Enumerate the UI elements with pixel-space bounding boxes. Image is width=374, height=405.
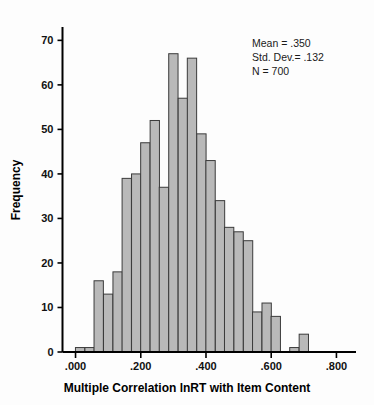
x-axis-tick-label: .800: [326, 360, 347, 372]
histogram-bar: [271, 316, 280, 352]
y-axis-tick-label: 30: [41, 212, 53, 224]
y-axis-tick-label: 40: [41, 168, 53, 180]
histogram-bar: [122, 178, 131, 352]
y-axis-tick-label: 60: [41, 79, 53, 91]
histogram-bar: [187, 58, 196, 352]
histogram-bars: [75, 54, 308, 352]
histogram-bar: [234, 232, 243, 352]
histogram-bar: [141, 143, 150, 352]
x-axis-tick-label: .600: [260, 360, 281, 372]
histogram-bar: [178, 98, 187, 352]
histogram-bar: [159, 187, 168, 352]
histogram-bar: [262, 303, 271, 352]
annotation-stddev: Std. Dev.= .132: [252, 51, 324, 63]
y-axis-ticks: 010203040506070: [41, 34, 62, 358]
x-axis-tick-label: .400: [195, 360, 216, 372]
histogram-bar: [224, 227, 233, 352]
histogram-bar: [243, 241, 252, 352]
histogram-bar: [253, 312, 262, 352]
x-axis-tick-label: .200: [130, 360, 151, 372]
histogram-bar: [150, 120, 159, 352]
x-axis-ticks: .000.200.400.600.800: [65, 352, 347, 372]
histogram-bar: [132, 174, 141, 352]
y-axis-tick-label: 20: [41, 257, 53, 269]
x-axis-title: Multiple Correlation lnRT with Item Cont…: [64, 381, 311, 395]
y-axis-tick-label: 70: [41, 34, 53, 46]
annotation-mean: Mean = .350: [252, 37, 311, 49]
x-axis-tick-label: .000: [65, 360, 86, 372]
histogram-figure: 010203040506070 .000.200.400.600.800 Mul…: [0, 0, 374, 405]
histogram-bar: [206, 161, 215, 352]
y-axis-tick-label: 0: [47, 346, 53, 358]
histogram-bar: [94, 281, 103, 352]
y-axis-tick-label: 10: [41, 301, 53, 313]
annotation-n: N = 700: [252, 65, 289, 77]
y-axis-tick-label: 50: [41, 123, 53, 135]
y-axis-title: Frequency: [9, 159, 23, 220]
chart-canvas: 010203040506070 .000.200.400.600.800 Mul…: [0, 0, 374, 405]
histogram-bar: [169, 54, 178, 352]
histogram-bar: [113, 272, 122, 352]
histogram-bar: [215, 201, 224, 352]
histogram-bar: [104, 294, 113, 352]
histogram-bar: [299, 334, 308, 352]
histogram-bar: [197, 134, 206, 352]
